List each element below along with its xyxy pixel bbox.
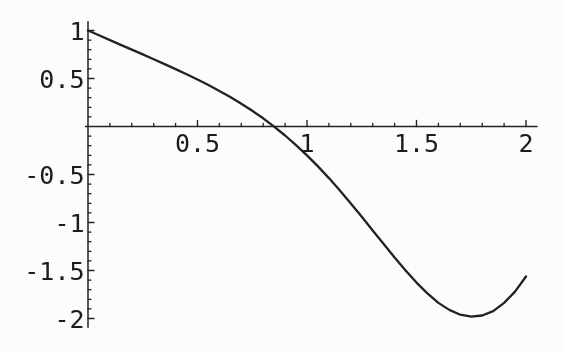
x-tick-label: 1 xyxy=(299,129,314,158)
y-tick-label: 1 xyxy=(69,17,84,46)
y-tick-label: -0.5 xyxy=(24,161,84,190)
x-tick-label: 2 xyxy=(518,129,533,158)
y-tick-label: 0.5 xyxy=(39,65,84,94)
x-tick-label: 0.5 xyxy=(175,129,220,158)
y-tick-label: -2 xyxy=(54,305,84,334)
y-tick-label: -1 xyxy=(54,209,84,238)
function-curve xyxy=(88,31,526,317)
y-tick-label: -1.5 xyxy=(24,257,84,286)
plot-figure: 0.511.5210.5-0.5-1-1.5-2 xyxy=(0,0,563,351)
plot-canvas: 0.511.5210.5-0.5-1-1.5-2 xyxy=(0,0,563,351)
x-tick-label: 1.5 xyxy=(394,129,439,158)
